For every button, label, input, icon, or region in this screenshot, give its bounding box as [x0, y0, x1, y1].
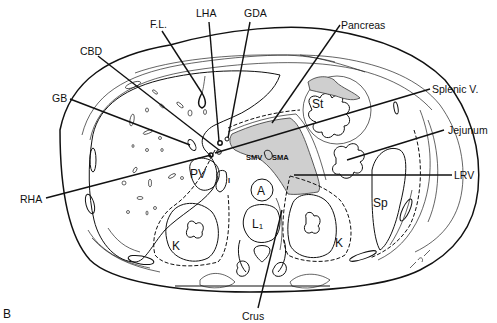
- falciform-ligament: [199, 93, 206, 108]
- right-renal-pelvis: [186, 221, 203, 238]
- label-fl: F.L.: [150, 18, 167, 30]
- label-cbd: CBD: [80, 45, 103, 57]
- liver-fissure: [202, 76, 205, 93]
- label-lha: LHA: [196, 7, 216, 19]
- rib-left-3: [393, 102, 399, 115]
- label-jejunum: Jejunum: [448, 124, 488, 136]
- transverse-process-left: [273, 262, 287, 276]
- label-aorta: A: [257, 184, 265, 198]
- jejunum: [333, 144, 365, 179]
- rib-left-1: [398, 198, 414, 223]
- label-smv: SMV: [246, 153, 262, 162]
- left-wall-dash: [370, 130, 420, 258]
- label-sma: SMA: [272, 153, 289, 162]
- label-pancreas: Pancreas: [341, 19, 385, 31]
- left-kidney: [288, 195, 337, 258]
- label-lrv: LRV: [454, 169, 474, 181]
- vertebral-arch: [238, 240, 285, 272]
- panel-label: B: [3, 307, 11, 321]
- label-crus: Crus: [242, 310, 264, 322]
- anatomy-diagram: F.L. LHA GDA Pancreas CBD Splenic V. GB …: [0, 0, 497, 323]
- label-splenic-v: Splenic V.: [432, 83, 478, 95]
- left-renal-pelvis: [304, 212, 320, 233]
- spinal-canal: [254, 246, 270, 263]
- label-stomach: St: [312, 97, 324, 111]
- label-rha: RHA: [20, 193, 42, 205]
- artist-signature: [410, 250, 430, 268]
- label-gda: GDA: [244, 7, 267, 19]
- left-wall-lines: [378, 110, 438, 260]
- label-spleen: Sp: [373, 196, 388, 210]
- left-hepatic-artery: [218, 141, 222, 145]
- label-ivc: I: [228, 176, 230, 185]
- label-gb: GB: [52, 92, 67, 104]
- label-right-kidney: K: [172, 239, 180, 253]
- liver-vessels: [122, 80, 207, 215]
- label-vertebra-sub: 1: [259, 222, 264, 231]
- rib-right-1: [90, 148, 96, 172]
- rib-left-2: [349, 249, 377, 263]
- label-portal-vein: PV: [190, 167, 206, 181]
- label-left-kidney: K: [335, 236, 343, 250]
